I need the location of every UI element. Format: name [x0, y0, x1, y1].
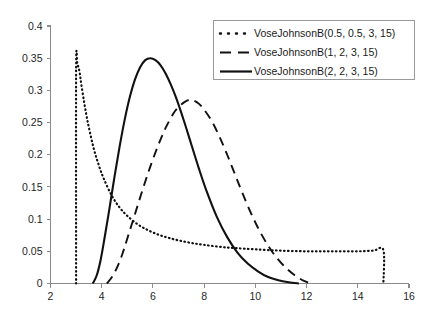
y-axis: 00.050.10.150.20.250.30.350.4 — [22, 20, 50, 290]
y-tick-label: 0.3 — [28, 84, 43, 96]
legend: VoseJohnsonB(0.5, 0.5, 3, 15)VoseJohnson… — [214, 21, 415, 80]
curve-dashed — [107, 100, 312, 284]
y-tick-label: 0.05 — [22, 245, 43, 257]
x-tick-label: 12 — [301, 290, 313, 302]
curve-dotted — [76, 51, 384, 284]
x-axis: 246810121416 — [48, 284, 415, 302]
y-tick-label: 0 — [37, 277, 43, 289]
x-tick-label: 10 — [250, 290, 262, 302]
y-axis-ticks: 00.050.10.150.20.250.30.350.4 — [22, 20, 50, 290]
x-tick-label: 14 — [352, 290, 364, 302]
data-curves — [76, 51, 384, 284]
x-tick-label: 8 — [201, 290, 207, 302]
chart-container: 00.050.10.150.20.250.30.350.4 2468101214… — [0, 0, 435, 321]
legend-label: VoseJohnsonB(2, 2, 3, 15) — [254, 65, 378, 77]
legend-label: VoseJohnsonB(1, 2, 3, 15) — [254, 46, 378, 58]
y-tick-label: 0.35 — [22, 52, 43, 64]
y-tick-label: 0.4 — [28, 20, 43, 32]
y-tick-label: 0.15 — [22, 181, 43, 193]
x-tick-label: 4 — [99, 290, 105, 302]
y-tick-label: 0.25 — [22, 116, 43, 128]
x-axis-ticks: 246810121416 — [48, 284, 415, 302]
y-tick-label: 0.2 — [28, 148, 43, 160]
x-tick-label: 16 — [403, 290, 415, 302]
line-chart: 00.050.10.150.20.250.30.350.4 2468101214… — [0, 0, 435, 321]
legend-label: VoseJohnsonB(0.5, 0.5, 3, 15) — [254, 27, 395, 39]
y-tick-label: 0.1 — [28, 213, 43, 225]
x-tick-label: 2 — [48, 290, 54, 302]
x-tick-label: 6 — [150, 290, 156, 302]
